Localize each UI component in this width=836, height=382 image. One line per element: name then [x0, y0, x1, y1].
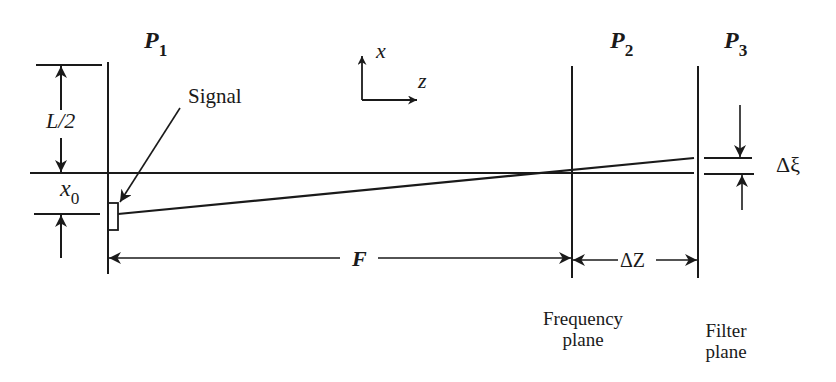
offset-label: x0: [60, 176, 79, 200]
frequency-plane-caption-line1: Frequency: [528, 308, 638, 329]
plane-p3-subscript: 3: [739, 41, 748, 60]
plane-p1-subscript: 1: [159, 41, 168, 60]
plane-p2-letter: P: [610, 27, 625, 53]
plane-p2-label: P2: [610, 28, 633, 52]
frequency-plane-caption: Frequency plane: [528, 308, 638, 350]
signal-ray: [118, 158, 694, 214]
filter-plane-caption-line1: Filter: [686, 320, 766, 341]
signal-aperture: [108, 203, 118, 230]
offset-subscript: 0: [71, 189, 80, 208]
focal-length-label: F: [352, 248, 367, 270]
half-aperture-label: L/2: [46, 110, 75, 132]
frequency-plane-caption-line2: plane: [528, 329, 638, 350]
signal-pointer-arrow: [120, 108, 180, 202]
x-axis-label: x: [376, 40, 386, 62]
plane-p3-label: P3: [724, 28, 747, 52]
separation-label: ΔZ: [620, 250, 645, 270]
z-axis-label: z: [418, 70, 427, 92]
plane-p2-subscript: 2: [625, 41, 634, 60]
signal-label: Signal: [188, 86, 242, 107]
plane-p1-label: P1: [144, 28, 167, 52]
filter-plane-caption: Filter plane: [686, 320, 766, 362]
offset-letter: x: [60, 175, 71, 201]
filter-plane-caption-line2: plane: [686, 341, 766, 362]
plane-p1-letter: P: [144, 27, 159, 53]
plane-p3-letter: P: [724, 27, 739, 53]
shift-label: Δξ: [776, 154, 800, 176]
